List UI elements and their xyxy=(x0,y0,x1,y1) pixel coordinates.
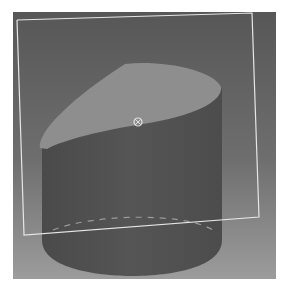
3d-viewport[interactable] xyxy=(13,12,276,279)
scene-canvas[interactable] xyxy=(13,12,276,279)
